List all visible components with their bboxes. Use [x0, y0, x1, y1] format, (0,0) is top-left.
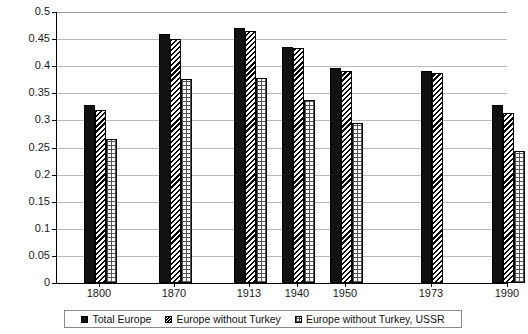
x-axis-tick-label-1870: 1870	[154, 287, 194, 300]
bar-group-1800	[84, 12, 117, 283]
x-axis-tick-label-1913: 1913	[229, 287, 269, 300]
bar-1990-series2	[514, 151, 525, 283]
bar-1940-series0	[282, 47, 293, 283]
x-axis-tick-mark	[345, 283, 346, 287]
bar-group-1990	[492, 12, 525, 283]
bar-1913-series2	[256, 78, 267, 283]
x-axis-tick-mark	[174, 283, 175, 287]
bar-1870-series0	[159, 34, 170, 283]
x-axis-tick-mark	[507, 283, 508, 287]
y-axis-tick-label: 0.15	[2, 196, 50, 207]
legend-swatch-icon	[295, 316, 302, 323]
y-axis-tick-label: 0.2	[2, 169, 50, 180]
y-axis-tick-label: 0.25	[2, 142, 50, 153]
bar-1973-series0	[421, 71, 432, 283]
legend-label: Europe without Turkey	[176, 313, 280, 325]
legend-label: Total Europe	[92, 313, 151, 325]
bar-group-1950	[330, 12, 363, 283]
legend-item-series1[interactable]: Europe without Turkey	[165, 313, 280, 325]
bar-group-1913	[234, 12, 267, 283]
bar-1870-series1	[170, 39, 181, 283]
x-axis-tick-mark	[249, 283, 250, 287]
bar-group-1940	[282, 12, 315, 283]
legend-item-series0[interactable]: Total Europe	[81, 313, 151, 325]
legend-label: Europe without Turkey, USSR	[306, 313, 445, 325]
bar-1913-series0	[234, 28, 245, 283]
plot-area	[56, 12, 507, 284]
bar-1940-series2	[304, 100, 315, 283]
bar-1950-series0	[330, 68, 341, 283]
bar-group-1870	[159, 12, 192, 283]
bar-1913-series1	[245, 31, 256, 283]
x-axis-tick-label-1940: 1940	[277, 287, 317, 300]
bar-1950-series1	[341, 71, 352, 283]
x-axis-tick-label-1990: 1990	[487, 287, 527, 300]
legend-swatch-icon	[165, 316, 172, 323]
legend-item-series2[interactable]: Europe without Turkey, USSR	[295, 313, 445, 325]
bar-1973-series1	[432, 73, 443, 283]
y-axis-tick-label: 0.1	[2, 223, 50, 234]
y-axis-tick-label: 0.45	[2, 33, 50, 44]
x-axis-tick-label-1950: 1950	[325, 287, 365, 300]
y-axis-tick-label: 0.5	[2, 6, 50, 17]
chart-legend: Total EuropeEurope without TurkeyEurope …	[64, 310, 462, 328]
x-axis-tick-mark	[99, 283, 100, 287]
bar-group-1973	[421, 12, 443, 283]
bar-chart: 0.50.450.40.350.30.250.20.150.10.050 180…	[0, 0, 528, 334]
bar-1800-series2	[106, 139, 117, 283]
bar-1990-series1	[503, 113, 514, 283]
y-axis-tick-label: 0.05	[2, 250, 50, 261]
y-axis-tick-label: 0.35	[2, 87, 50, 98]
legend-swatch-icon	[81, 316, 88, 323]
bar-1800-series0	[84, 105, 95, 283]
bar-1800-series1	[95, 110, 106, 283]
x-axis-tick-mark	[431, 283, 432, 287]
x-axis-tick-label-1973: 1973	[411, 287, 451, 300]
y-axis-tick-label: 0.4	[2, 60, 50, 71]
x-axis: 18001870191319401950197319902003	[0, 287, 528, 305]
bar-1940-series1	[293, 48, 304, 283]
bar-1990-series0	[492, 105, 503, 283]
x-axis-tick-mark	[297, 283, 298, 287]
bar-1950-series2	[352, 123, 363, 283]
x-axis-tick-label-1800: 1800	[79, 287, 119, 300]
y-axis-tick-label: 0.3	[2, 114, 50, 125]
bar-1870-series2	[181, 79, 192, 283]
